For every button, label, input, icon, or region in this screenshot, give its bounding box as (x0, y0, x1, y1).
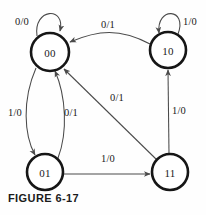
edge-label-11-to-00: 0/1 (110, 92, 124, 103)
edge-label-10-to-00: 0/1 (101, 19, 115, 30)
edge-label-10-to-10: 1/0 (183, 16, 197, 27)
edge-10-to-00 (70, 33, 150, 45)
edge-00-to-01 (26, 68, 36, 155)
edge-label-01-to-00: 0/1 (64, 107, 78, 118)
edge-label-00-to-01: 1/0 (8, 107, 22, 118)
edge-label-00-to-00: 0/0 (15, 16, 29, 27)
figure-container: 00 10 01 11 0/0 1/0 0/1 1/0 0/1 0/1 1/0 … (0, 0, 206, 215)
state-node-11-label: 11 (164, 167, 175, 179)
state-diagram: 00 10 01 11 0/0 1/0 0/1 1/0 0/1 0/1 1/0 … (0, 0, 206, 215)
edge-label-11-to-10: 1/0 (172, 105, 186, 116)
edge-11-to-10 (168, 70, 169, 154)
edge-label-01-to-11: 1/0 (101, 153, 115, 164)
state-node-10-label: 10 (162, 45, 174, 57)
figure-caption: FIGURE 6-17 (8, 192, 79, 204)
state-node-01-label: 01 (39, 167, 51, 179)
state-node-00-label: 00 (44, 47, 56, 59)
